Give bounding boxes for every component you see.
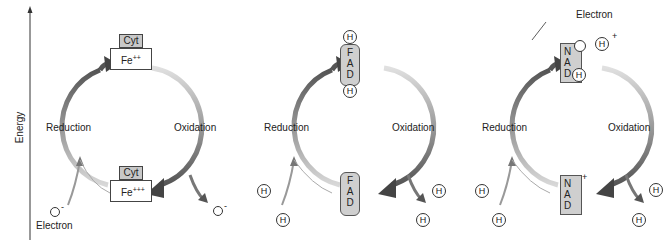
h-atom-icon: H: [343, 84, 357, 98]
fe-oxidized-box: Fe+++: [110, 180, 152, 202]
reduction-label: Reduction: [264, 122, 309, 133]
fe-charge: ++: [133, 54, 141, 61]
h-atom-bound-icon: H: [572, 68, 586, 82]
reduction-label: Reduction: [46, 122, 91, 133]
fad-letter: A: [341, 186, 359, 197]
bound-electron-icon: [574, 40, 586, 52]
h-atom-input-icon: H: [475, 184, 489, 198]
fe-reduced-box: Fe++: [110, 48, 152, 70]
oxidation-label: Oxidation: [608, 122, 650, 133]
nad-letter: A: [564, 57, 581, 68]
nad-plus-block: N A D: [560, 175, 582, 215]
h-atom-output-icon: H: [649, 183, 663, 197]
fad-letter: D: [341, 69, 359, 80]
h-atom-input-icon: H: [492, 213, 506, 227]
proton-icon: H: [595, 37, 609, 51]
fad-letter: D: [341, 197, 359, 208]
electron-out-charge: -: [224, 201, 227, 211]
fad-letter: A: [341, 58, 359, 69]
nad-letter: A: [564, 189, 581, 200]
h-atom-output-icon: H: [416, 213, 430, 227]
cyt-top-label: Cyt: [119, 34, 143, 48]
oxidation-label: Oxidation: [174, 122, 216, 133]
h-atom-input-icon: H: [276, 213, 290, 227]
fad-letter: F: [341, 47, 359, 58]
nad-letter: D: [564, 200, 581, 211]
electron-in-charge: -: [61, 202, 64, 212]
nad-letter: N: [564, 178, 581, 189]
reduction-label: Reduction: [482, 122, 527, 133]
fe-ion-label: Fe: [121, 187, 133, 198]
cyt-bottom-label: Cyt: [119, 166, 143, 180]
fad-oxidized-block: F A D: [340, 172, 360, 216]
electron-label: Electron: [36, 220, 73, 231]
proton-charge: +: [612, 31, 617, 41]
oxidation-label: Oxidation: [392, 122, 434, 133]
energy-axis-arrow: [28, 6, 33, 240]
h-atom-input-icon: H: [257, 184, 271, 198]
electron-out-icon: [213, 206, 223, 216]
fad-reduced-block: F A D: [340, 44, 360, 86]
fad-letter: F: [341, 175, 359, 186]
h-atom-icon: H: [343, 30, 357, 44]
fe-charge: +++: [133, 186, 145, 193]
energy-axis-label: Energy: [14, 112, 25, 144]
fe-ion-label: Fe: [121, 55, 133, 66]
h-atom-output-icon: H: [432, 184, 446, 198]
electron-label: Electron: [576, 9, 613, 20]
nad-charge: +: [582, 172, 587, 182]
h-atom-output-icon: H: [632, 213, 646, 227]
electron-in-icon: [50, 207, 60, 217]
